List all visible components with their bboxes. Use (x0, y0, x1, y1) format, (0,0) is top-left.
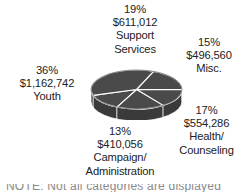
pie-chart-figure: 19% $611,012 Support Services 15% $496,5… (0, 0, 247, 192)
slice-amount: $410,056 (73, 138, 167, 151)
slice-amount: $611,012 (98, 16, 172, 29)
slice-label-youth: 36% $1,162,742 Youth (3, 64, 91, 104)
slice-name-line1: Campaign/ (73, 151, 167, 164)
slice-name-line2: Administration (73, 165, 167, 178)
slice-amount: $496,560 (171, 49, 247, 62)
slice-percent: 13% (73, 125, 167, 138)
slice-amount: $1,162,742 (3, 77, 91, 90)
cut-off-caption-text: NOTE: Not all categories are displayed (6, 184, 221, 192)
pie-slices-group (91, 70, 182, 120)
slice-name-line2: Services (98, 43, 172, 56)
cut-off-caption: NOTE: Not all categories are displayed (0, 184, 247, 192)
slice-label-campaign-administration: 13% $410,056 Campaign/ Administration (73, 125, 167, 178)
pie-chart-graphic (89, 68, 184, 120)
slice-percent: 36% (3, 64, 91, 77)
slice-percent: 19% (98, 3, 172, 16)
slice-label-support-services: 19% $611,012 Support Services (98, 3, 172, 56)
slice-name-line1: Youth (3, 90, 91, 103)
slice-name-line1: Support (98, 29, 172, 42)
slice-name-line2: Counseling (166, 144, 247, 157)
slice-name-line1: Health/ (166, 130, 247, 143)
pie-svg (89, 68, 184, 120)
slice-percent: 15% (171, 36, 247, 49)
